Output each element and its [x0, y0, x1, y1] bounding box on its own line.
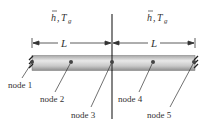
length-label-right: L	[150, 37, 157, 49]
subscript-g: g	[68, 17, 72, 25]
node-5-marker	[192, 60, 196, 64]
h-bar-symbol: h	[51, 12, 56, 23]
separator: ,	[153, 12, 156, 23]
node-1-marker	[30, 60, 34, 64]
node-4-marker	[151, 60, 155, 64]
node-4-label: node 4	[118, 94, 143, 104]
t-symbol: T	[157, 12, 164, 23]
convection-label-left: h , T g	[51, 11, 72, 25]
node-3-label: node 3	[71, 110, 96, 120]
node-1-label: node 1	[8, 80, 32, 90]
subscript-g: g	[164, 17, 168, 25]
t-symbol: T	[61, 12, 68, 23]
fin-diagram: h , T g h , T g L L	[0, 0, 212, 126]
node-5-label: node 5	[147, 110, 172, 120]
dimension-left	[32, 38, 111, 48]
node-2-label: node 2	[40, 94, 64, 104]
node-2-marker	[69, 60, 73, 64]
convection-label-right: h , T g	[147, 11, 168, 25]
separator: ,	[57, 12, 60, 23]
h-bar-symbol: h	[147, 12, 152, 23]
node-3-marker	[110, 60, 114, 64]
length-label-left: L	[60, 37, 67, 49]
